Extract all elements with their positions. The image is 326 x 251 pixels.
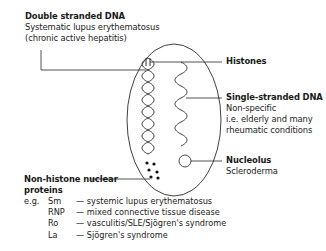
histones-title: Histones [226,56,266,67]
nonhistone-title-1: Non-histone nuclear [24,174,118,185]
disease-rnp: — mixed connective tissue disease [76,207,220,218]
nonhistone-title-2: proteins [24,185,118,196]
antigen-rnp: RNP [48,207,76,218]
nonhistone-label: Non-histone nuclear proteins [24,174,118,196]
ssdna-line-3: rheumatic conditions [226,125,323,136]
nucleolus-title: Nucleolus [226,155,278,166]
non-histone-proteins-icon [145,161,159,179]
dsdna-line-1: Systematic lupus erythematosus [25,22,160,33]
disease-la: — Sjögren's syndrome [76,230,168,241]
dsdna-label: Double stranded DNA Systematic lupus ery… [25,11,160,44]
histones-label: Histones [226,56,266,67]
antigen-sm: Sm [48,196,76,207]
dsdna-title: Double stranded DNA [25,11,160,22]
double-stranded-dna-icon [142,58,154,154]
nucleus-outline [127,44,221,196]
nucleolus-label: Nucleolus Scleroderma [226,155,278,177]
antigen-ro: Ro [48,218,76,229]
examples-prefix: e.g. [24,196,48,207]
nucleolus-line-1: Scleroderma [226,166,278,177]
disease-sm: — systemic lupus erythematosus [76,196,212,207]
leader-lines [41,50,222,179]
antigen-la: La [48,230,76,241]
dsdna-line-2: (chronic active hepatitis) [25,33,160,44]
example-row-sm: e.g. Sm — systemic lupus erythematosus [24,196,226,207]
ssdna-label: Single-stranded DNA Non-specific i.e. el… [226,92,323,136]
nonhistone-examples: e.g. Sm — systemic lupus erythematosus R… [24,196,226,241]
ssdna-line-1: Non-specific [226,103,323,114]
dsdna-leader [41,50,146,70]
ssdna-title: Single-stranded DNA [226,92,323,103]
disease-ro: — vasculitis/SLE/Sjögren's syndrome [76,218,226,229]
example-row-rnp: RNP — mixed connective tissue disease [24,207,226,218]
example-row-la: La — Sjögren's syndrome [24,230,226,241]
ssdna-line-2: i.e. elderly and many [226,114,323,125]
nucleolus-icon [179,155,191,167]
example-row-ro: Ro — vasculitis/SLE/Sjögren's syndrome [24,218,226,229]
single-stranded-dna-icon [175,62,187,146]
